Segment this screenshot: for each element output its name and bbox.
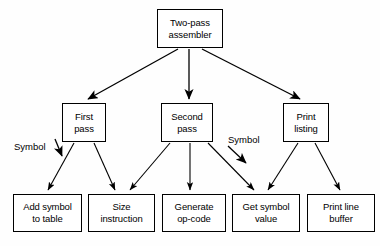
node-print-listing[interactable]: Print listing <box>283 103 329 142</box>
connector-assembler-to-first-pass <box>88 49 178 99</box>
pointer-symbol-label-right <box>228 146 246 163</box>
connector-second-pass-to-get-symbol-value <box>208 143 254 190</box>
node-label: Print line buffer <box>323 201 359 225</box>
node-second-pass[interactable]: Second pass <box>161 103 213 142</box>
edge-label-symbol-left: Symbol <box>14 141 46 152</box>
diagram-canvas: Two-pass assembler First pass Second pas… <box>0 0 380 246</box>
pointer-symbol-label-left <box>55 139 62 156</box>
node-label: Generate op-code <box>175 201 214 225</box>
node-label: Two-pass assembler <box>169 17 212 41</box>
node-generate-op-code[interactable]: Generate op-code <box>162 194 226 232</box>
node-size-instruction[interactable]: Size instruction <box>88 194 155 232</box>
node-label: Second pass <box>171 111 203 135</box>
node-label: Size instruction <box>100 201 142 225</box>
connector-second-pass-to-size-instruction <box>130 143 170 190</box>
node-get-symbol-value[interactable]: Get symbol value <box>232 194 300 232</box>
node-two-pass-assembler[interactable]: Two-pass assembler <box>157 9 223 48</box>
node-first-pass[interactable]: First pass <box>62 103 106 142</box>
connector-first-pass-to-add-symbol <box>48 143 74 190</box>
node-label: Get symbol value <box>242 201 289 225</box>
node-label: Add symbol to table <box>23 201 72 225</box>
node-label: Print listing <box>294 111 318 135</box>
connector-print-listing-to-get-symbol-value <box>268 143 298 190</box>
connector-print-listing-to-print-line-buffer <box>315 143 340 190</box>
node-print-line-buffer[interactable]: Print line buffer <box>307 194 375 232</box>
edge-label-symbol-right: Symbol <box>228 134 260 145</box>
node-add-symbol-to-table[interactable]: Add symbol to table <box>13 194 82 232</box>
connector-first-pass-to-size-instruction <box>94 143 115 190</box>
connector-assembler-to-print-listing <box>202 49 300 99</box>
node-label: First pass <box>74 111 94 135</box>
